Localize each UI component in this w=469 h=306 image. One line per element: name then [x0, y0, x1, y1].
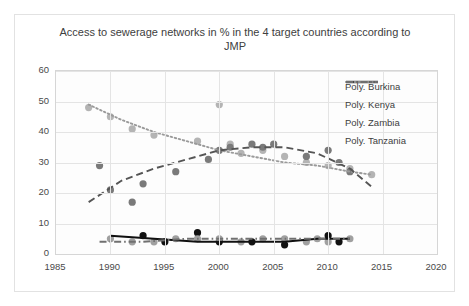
- gridline-vertical: [165, 71, 166, 254]
- gridline-horizontal: [56, 193, 437, 194]
- x-axis-tick-labels: 19851990199520002005201020152020: [15, 261, 456, 277]
- scatter-series: [85, 101, 375, 178]
- x-axis-tick: 2010: [307, 261, 347, 272]
- data-point: [139, 180, 146, 187]
- x-axis-tick: 2000: [198, 261, 238, 272]
- chart-legend: Poly. BurkinaPoly. KenyaPoly. ZambiaPoly…: [345, 77, 465, 149]
- legend-item[interactable]: Poly. Zambia: [345, 113, 465, 131]
- y-axis-tick: 50: [23, 95, 49, 106]
- gridline-horizontal: [56, 71, 437, 72]
- gridline-vertical: [219, 71, 220, 254]
- legend-label: Poly. Zambia: [345, 117, 400, 128]
- y-axis-tick: 10: [23, 217, 49, 228]
- y-axis-tick-labels: 0102030405060: [19, 70, 49, 255]
- data-point: [303, 153, 310, 160]
- y-axis-tick: 40: [23, 125, 49, 136]
- gridline-vertical: [274, 71, 275, 254]
- y-axis-tick: 60: [23, 64, 49, 75]
- data-point: [281, 153, 288, 160]
- x-axis-tick: 2020: [416, 261, 456, 272]
- legend-item[interactable]: Poly. Tanzania: [345, 131, 465, 149]
- x-axis-tick: 1985: [35, 261, 75, 272]
- legend-key-icon: [345, 77, 379, 87]
- chart-frame: Access to sewerage networks in % in the …: [14, 14, 455, 292]
- legend-label: Poly. Tanzania: [345, 135, 406, 146]
- gridline-horizontal: [56, 224, 437, 225]
- x-axis-tick: 2005: [253, 261, 293, 272]
- gridline-vertical: [328, 71, 329, 254]
- y-axis-tick: 30: [23, 156, 49, 167]
- chart-title: Access to sewerage networks in % in the …: [55, 25, 415, 53]
- gridline-vertical: [110, 71, 111, 254]
- legend-label: Poly. Kenya: [345, 99, 395, 110]
- x-axis-tick: 1995: [144, 261, 184, 272]
- data-point: [237, 150, 244, 157]
- legend-item[interactable]: Poly. Kenya: [345, 95, 465, 113]
- x-axis-tick: 2015: [362, 261, 402, 272]
- y-axis-tick: 20: [23, 186, 49, 197]
- y-axis-tick: 0: [23, 247, 49, 258]
- x-axis-tick: 1990: [89, 261, 129, 272]
- data-point: [129, 199, 136, 206]
- data-point: [172, 168, 179, 175]
- gridline-horizontal: [56, 163, 437, 164]
